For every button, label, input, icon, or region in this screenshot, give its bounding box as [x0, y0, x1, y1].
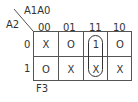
kmap-grid: X O 1 O O X X X — [33, 31, 132, 81]
cell-0-00: X — [34, 32, 58, 56]
cell-1-01: X — [59, 57, 83, 81]
cell-0-01: O — [59, 32, 83, 56]
cell-1-10: X — [108, 57, 132, 81]
row-label-0: 0 — [24, 40, 30, 50]
map-title: F3 — [36, 84, 48, 94]
cell-1-00: O — [34, 57, 58, 81]
grouping-loop — [88, 35, 103, 77]
row-variable-label: A2 — [6, 20, 19, 30]
cell-0-10: O — [108, 32, 132, 56]
row-label-1: 1 — [24, 64, 30, 74]
col-variable-label: A1A0 — [24, 6, 50, 16]
